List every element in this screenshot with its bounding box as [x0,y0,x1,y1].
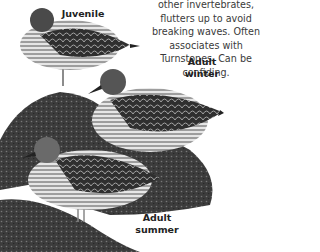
description-line: other invertebrates, flutters up to avoi… [140,0,272,25]
label-juvenile: Juvenile [58,8,108,20]
label-adult-summer: Adult summer [134,212,180,236]
adult-winter-bird-illustration [88,69,224,152]
label-line: Adult [134,212,180,224]
label-adult-winter: Adult winter [182,56,222,80]
description-line: breaking waves. Often associates with [140,25,272,52]
label-line: Adult [182,56,222,68]
label-line: summer [134,224,180,236]
label-line: winter [182,68,222,80]
